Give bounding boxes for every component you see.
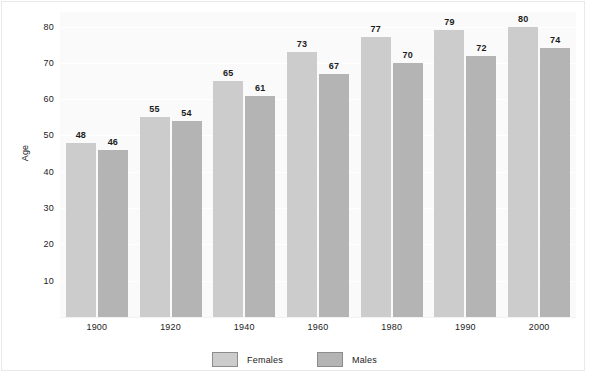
legend-item-females[interactable]: Females — [212, 352, 283, 367]
bar-females-1900 — [66, 143, 96, 317]
bar-value-label: 74 — [550, 35, 560, 45]
bar-females-1940 — [213, 81, 243, 317]
x-axis-tick-label: 1940 — [234, 322, 255, 332]
y-axis-tick-label: 40 — [44, 167, 54, 177]
bar-value-label: 77 — [370, 24, 380, 34]
chart-legend: Females Males — [0, 352, 589, 367]
x-axis-tick-label: 2000 — [529, 322, 550, 332]
bar-value-label: 54 — [181, 108, 191, 118]
bar-value-label: 61 — [255, 83, 265, 93]
gridline — [60, 99, 576, 100]
bar-females-2000 — [508, 27, 538, 317]
bar-males-1920 — [172, 121, 202, 317]
gridline — [60, 135, 576, 136]
bar-value-label: 72 — [476, 43, 486, 53]
bar-males-1980 — [393, 63, 423, 317]
legend-item-males[interactable]: Males — [317, 352, 377, 367]
bar-value-label: 73 — [297, 39, 307, 49]
legend-label-males: Males — [352, 355, 377, 365]
bar-value-label: 65 — [223, 68, 233, 78]
bar-value-label: 80 — [518, 14, 528, 24]
bar-value-label: 55 — [149, 104, 159, 114]
gridline — [60, 63, 576, 64]
bar-females-1960 — [287, 52, 317, 317]
bar-value-label: 70 — [402, 50, 412, 60]
gridline — [60, 172, 576, 173]
gridline — [60, 281, 576, 282]
y-axis-title: Age — [20, 126, 30, 180]
y-axis-tick-label: 30 — [44, 203, 54, 213]
bar-value-label: 79 — [444, 17, 454, 27]
x-axis-tick-label: 1990 — [455, 322, 476, 332]
legend-label-females: Females — [247, 355, 283, 365]
bar-males-2000 — [540, 48, 570, 317]
gridline — [60, 244, 576, 245]
y-axis-tick-label: 60 — [44, 94, 54, 104]
bar-males-1960 — [319, 74, 349, 317]
legend-swatch-females-icon — [212, 352, 238, 367]
plot-area — [60, 12, 576, 317]
bar-males-1900 — [98, 150, 128, 317]
bar-value-label: 67 — [329, 61, 339, 71]
x-axis-tick-label: 1920 — [160, 322, 181, 332]
x-axis-tick-label: 1900 — [86, 322, 107, 332]
y-axis-tick-label: 10 — [44, 276, 54, 286]
gridline — [60, 27, 576, 28]
x-axis-tick-label: 1980 — [381, 322, 402, 332]
bar-females-1980 — [361, 37, 391, 317]
bar-value-label: 48 — [76, 130, 86, 140]
gridline — [60, 208, 576, 209]
bar-chart-figure: Age 1020304050607080 1900192019401960198… — [0, 0, 589, 386]
y-axis: Age 1020304050607080 — [0, 0, 54, 386]
bar-value-label: 46 — [108, 137, 118, 147]
x-axis-tick-label: 1960 — [308, 322, 329, 332]
y-axis-tick-label: 70 — [44, 58, 54, 68]
bar-females-1920 — [140, 117, 170, 317]
y-axis-tick-label: 20 — [44, 239, 54, 249]
legend-swatch-males-icon — [317, 352, 343, 367]
y-axis-tick-label: 80 — [44, 22, 54, 32]
bar-males-1940 — [245, 96, 275, 317]
bar-males-1990 — [466, 56, 496, 317]
y-axis-tick-label: 50 — [44, 130, 54, 140]
x-axis-baseline — [60, 317, 576, 318]
bar-females-1990 — [434, 30, 464, 317]
